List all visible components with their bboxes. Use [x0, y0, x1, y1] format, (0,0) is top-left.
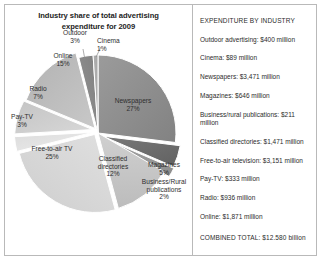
- pie-label-free-to-air-tv-name: Free-to-air TV: [23, 145, 81, 153]
- pie-label-magazines: Magazines 5%: [141, 161, 187, 176]
- expenditure-combined-total: COMBINED TOTAL: $12.580 billion: [200, 234, 311, 242]
- pie-label-classified-directories-name2: directories: [91, 163, 135, 171]
- pie-label-cinema-name: Cinema: [97, 37, 133, 45]
- expenditure-row-business-rural-publications: Business/rural publications: $211 millio…: [200, 111, 311, 128]
- pie-label-outdoor-value: 3%: [53, 37, 97, 45]
- pie-label-radio-name: Radio: [21, 85, 55, 93]
- pie-graphic: Outdoor 3% Cinema 1% Online 15% Radio 7%…: [5, 5, 192, 255]
- expenditure-heading: EXPENDITURE BY INDUSTRY: [200, 17, 311, 25]
- pie-label-online-name: Online: [43, 52, 83, 60]
- pie-label-cinema: Cinema 1%: [97, 37, 133, 52]
- pie-label-newspapers-value: 27%: [109, 105, 157, 113]
- pie-label-pay-tv-name: Pay-TV: [7, 113, 37, 121]
- pie-label-business-rural-name2: publications: [138, 186, 190, 194]
- expenditure-row-free-to-air-television: Free-to-air television: $3,151 million: [200, 157, 311, 165]
- expenditure-row-magazines: Magazines: $646 million: [200, 92, 311, 100]
- pie-label-free-to-air-tv-value: 25%: [23, 153, 81, 161]
- pie-label-business-rural: Business/Rural publications 2%: [138, 178, 190, 201]
- pie-label-newspapers-name: Newspapers: [109, 97, 157, 105]
- pie-label-classified-directories-name1: Classified: [91, 155, 135, 163]
- pie-chart-panel: Industry share of total advertising expe…: [5, 5, 192, 255]
- pie-label-radio-value: 7%: [21, 93, 55, 101]
- expenditure-row-online: Online: $1,871 million: [200, 213, 311, 221]
- pie-label-newspapers: Newspapers 27%: [109, 97, 157, 112]
- expenditure-row-radio: Radio: $936 million: [200, 194, 311, 202]
- pie-label-online: Online 15%: [43, 52, 83, 67]
- pie-label-business-rural-value: 2%: [138, 193, 190, 201]
- pie-label-classified-directories: Classified directories 12%: [91, 155, 135, 178]
- pie-label-outdoor: Outdoor 3%: [53, 29, 97, 44]
- pie-label-radio: Radio 7%: [21, 85, 55, 100]
- pie-label-business-rural-name1: Business/Rural: [138, 178, 190, 186]
- expenditure-row-cinema: Cinema: $89 million: [200, 54, 311, 62]
- pie-label-magazines-value: 5%: [141, 169, 187, 177]
- pie-label-magazines-name: Magazines: [141, 161, 187, 169]
- expenditure-table-panel: EXPENDITURE BY INDUSTRY Outdoor advertis…: [193, 5, 317, 255]
- pie-label-pay-tv: Pay-TV 3%: [7, 113, 37, 128]
- pie-label-cinema-value: 1%: [97, 45, 133, 53]
- pie-label-online-value: 15%: [43, 60, 83, 68]
- expenditure-row-pay-tv: Pay-TV: $333 million: [200, 175, 311, 183]
- pie-label-free-to-air-tv: Free-to-air TV 25%: [23, 145, 81, 160]
- expenditure-row-outdoor-advertising: Outdoor advertising: $400 million: [200, 36, 311, 44]
- pie-label-outdoor-name: Outdoor: [53, 29, 97, 37]
- pie-label-classified-directories-value: 12%: [91, 170, 135, 178]
- expenditure-row-newspapers: Newspapers: $3,471 million: [200, 73, 311, 81]
- advertising-expenditure-figure: Industry share of total advertising expe…: [0, 0, 322, 261]
- pie-label-pay-tv-value: 3%: [7, 121, 37, 129]
- expenditure-row-classified-directories: Classified directories: $1,471 million: [200, 138, 311, 146]
